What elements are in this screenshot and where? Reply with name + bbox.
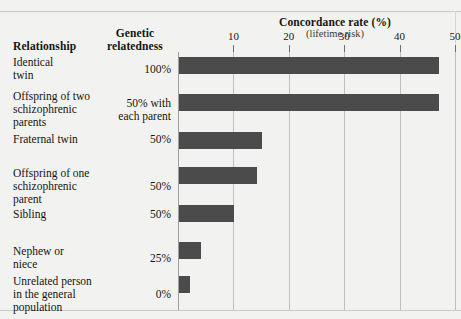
row-label-line: schizophrenic [13, 103, 90, 116]
x-tick-label-30: 30 [339, 30, 350, 42]
gridline-50 [455, 52, 456, 310]
gridline-20 [289, 52, 290, 310]
row-value-line: each parent [95, 110, 171, 123]
row-value-line: 50% [95, 208, 171, 221]
row-value-genetic-relatedness: 50% [95, 208, 171, 221]
row-value-genetic-relatedness: 25% [95, 252, 171, 265]
row-label-line: Unrelated person [13, 275, 92, 288]
column-header-genetic-relatedness: Genetic relatedness [99, 27, 171, 53]
bar-concordance-rate [179, 242, 201, 259]
row-label-relationship: Identicaltwin [13, 56, 53, 82]
chart-frame-top-border [0, 11, 461, 12]
bar-concordance-rate [179, 205, 234, 222]
row-value-genetic-relatedness: 100% [95, 63, 171, 76]
bar-concordance-rate [179, 132, 262, 149]
chart-axis-title: Concordance rate (%) [215, 16, 455, 28]
scan-artifact-text [60, 0, 400, 9]
x-tick-label-20: 20 [283, 30, 294, 42]
tick-mark-50 [455, 45, 456, 52]
x-tick-label-50: 50 [450, 30, 461, 42]
gridline-40 [400, 52, 401, 310]
tick-mark-30 [344, 45, 345, 52]
tick-mark-10 [233, 45, 234, 52]
row-value-line: 50% with [95, 97, 171, 110]
row-value-genetic-relatedness: 50% [95, 133, 171, 146]
x-tick-label-40: 40 [394, 30, 405, 42]
row-label-line: Nephew or [13, 245, 64, 258]
row-label-line: parents [13, 116, 90, 129]
gridline-30 [344, 52, 345, 310]
bar-concordance-rate [179, 57, 439, 74]
row-label-line: parent [13, 193, 89, 206]
column-header-genetic-line1: Genetic [99, 27, 171, 40]
row-value-line: 100% [95, 63, 171, 76]
row-label-line: twin [13, 69, 53, 82]
row-value-line: 0% [95, 288, 171, 301]
row-value-line: 50% [95, 180, 171, 193]
row-label-line: schizophrenic [13, 180, 89, 193]
row-label-relationship: Offspring of twoschizophrenicparents [13, 90, 90, 130]
row-label-relationship: Sibling [13, 208, 46, 221]
row-label-relationship: Nephew orniece [13, 245, 64, 271]
bar-concordance-rate [179, 94, 439, 111]
row-value-genetic-relatedness: 0% [95, 288, 171, 301]
row-label-line: population [13, 301, 92, 314]
column-header-genetic-line2: relatedness [99, 40, 171, 53]
row-label-relationship: Unrelated personin the generalpopulation [13, 275, 92, 315]
row-label-line: Fraternal twin [13, 133, 78, 146]
row-label-line: Identical [13, 56, 53, 69]
row-label-line: niece [13, 258, 64, 271]
schizophrenia-concordance-chart: Relationship Genetic relatedness Concord… [0, 0, 461, 319]
tick-mark-40 [400, 45, 401, 52]
row-label-line: Sibling [13, 208, 46, 221]
row-value-line: 25% [95, 252, 171, 265]
bar-concordance-rate [179, 167, 257, 184]
row-label-relationship: Fraternal twin [13, 133, 78, 146]
row-value-genetic-relatedness: 50% witheach parent [95, 97, 171, 123]
row-value-genetic-relatedness: 50% [95, 180, 171, 193]
row-value-line: 50% [95, 133, 171, 146]
bar-concordance-rate [179, 276, 190, 293]
row-label-line: Offspring of two [13, 90, 90, 103]
chart-axis-subtitle: (lifetime risk) [215, 28, 455, 39]
tick-mark-20 [289, 45, 290, 52]
column-header-relationship: Relationship [13, 40, 113, 53]
row-label-relationship: Offspring of oneschizophrenicparent [13, 167, 89, 207]
row-label-line: in the general [13, 288, 92, 301]
row-label-line: Offspring of one [13, 167, 89, 180]
x-tick-label-10: 10 [228, 30, 239, 42]
